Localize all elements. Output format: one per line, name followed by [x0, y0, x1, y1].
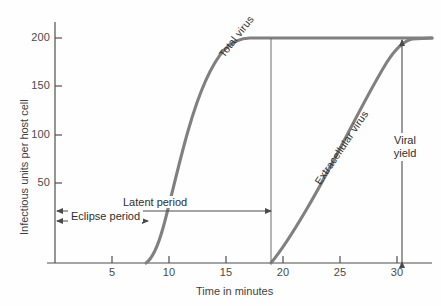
viral-yield-label-line1: Viral: [394, 134, 416, 146]
x-axis-ticks: [112, 256, 397, 263]
viral-yield-label-line2: yield: [394, 147, 417, 159]
x-tick-label-15: 15: [211, 266, 241, 278]
y-tick-label-200: 200: [20, 31, 50, 43]
eclipse-period-label: Eclipse period: [68, 210, 143, 222]
y-axis-ticks: [55, 38, 62, 183]
x-tick-label-10: 10: [154, 266, 184, 278]
y-tick-label-150: 150: [20, 79, 50, 91]
x-axis-title: Time in minutes: [196, 285, 273, 297]
viral-yield-label: Viral yield: [385, 133, 425, 161]
x-tick-label-20: 20: [268, 266, 298, 278]
x-tick-label-25: 25: [325, 266, 355, 278]
virus-growth-curve-figure: 200 150 100 50 5 10 15 20 25 30 Infectio…: [0, 0, 441, 306]
x-tick-label-30: 30: [382, 266, 412, 278]
latent-period-label: Latent period: [120, 196, 190, 208]
y-axis-title: Infectious units per host cell: [18, 99, 30, 235]
x-tick-label-5: 5: [97, 266, 127, 278]
